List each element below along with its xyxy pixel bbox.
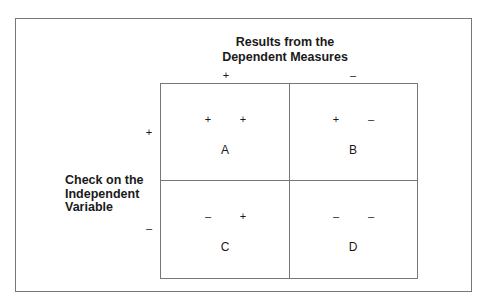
cell-d-sign-2: –	[364, 210, 378, 222]
column-sign-negative: –	[346, 69, 360, 81]
cell-a-sign-2: +	[236, 113, 250, 125]
cell-b-sign-1: +	[329, 113, 343, 125]
cell-a-label: A	[215, 143, 235, 157]
row-header-title: Check on the Independent Variable	[65, 174, 144, 215]
column-sign-positive: +	[219, 69, 233, 81]
grid-vertical-divider	[289, 83, 290, 279]
row-header-line2: Independent	[65, 188, 144, 202]
cell-d-label: D	[343, 240, 363, 254]
row-sign-negative: –	[142, 222, 156, 234]
cell-b-label: B	[343, 143, 363, 157]
cell-b-sign-2: –	[364, 113, 378, 125]
column-header-line1: Results from the	[200, 35, 370, 50]
column-header-line2: Dependent Measures	[200, 50, 370, 65]
row-sign-positive: +	[142, 126, 156, 138]
cell-d-sign-1: –	[329, 210, 343, 222]
row-header-line1: Check on the	[65, 174, 144, 188]
column-header-title: Results from the Dependent Measures	[200, 35, 370, 65]
cell-c-label: C	[215, 240, 235, 254]
cell-c-sign-2: +	[236, 210, 250, 222]
cell-c-sign-1: –	[201, 210, 215, 222]
cell-a-sign-1: +	[201, 113, 215, 125]
grid-horizontal-divider	[160, 180, 418, 181]
row-header-line3: Variable	[65, 201, 144, 215]
